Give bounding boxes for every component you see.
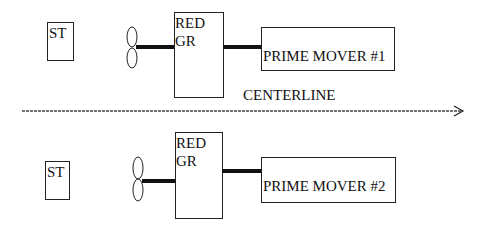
bottom-propeller-shaft [142, 179, 175, 183]
bottom-reduction-gear-box: RED GR [175, 132, 223, 219]
bottom-propeller-icon [0, 0, 486, 231]
bottom-gear-label-line1: RED [176, 135, 206, 152]
bottom-drive-shaft [222, 169, 262, 173]
bottom-gear-label-line2: GR [176, 153, 197, 170]
prime-mover-2-label: PRIME MOVER #2 [263, 178, 386, 195]
prime-mover-2-box: PRIME MOVER #2 [261, 157, 396, 203]
